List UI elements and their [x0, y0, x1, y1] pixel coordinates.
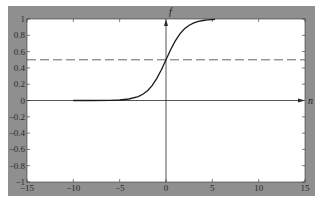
y-tick-label: −0.2 — [9, 112, 25, 122]
x-tick-label: 10 — [254, 183, 264, 193]
y-tick-label: −0.6 — [9, 144, 26, 154]
y-tick-label: 0.2 — [14, 79, 25, 89]
y-tick-label: 1 — [21, 14, 26, 24]
y-tick-label: −0.8 — [9, 161, 26, 171]
n-axis-label: n — [308, 95, 313, 106]
y-tick-label: −0.4 — [9, 128, 26, 138]
x-tick-label: 5 — [210, 183, 215, 193]
x-tick-label: −5 — [115, 183, 125, 193]
y-tick-label: 0.4 — [14, 63, 26, 73]
x-tick-label: 0 — [164, 183, 169, 193]
y-tick-label: 0 — [21, 96, 26, 106]
y-tick-label: 0.6 — [14, 47, 26, 57]
y-tick-label: 0.8 — [14, 30, 26, 40]
x-tick-label: −10 — [66, 183, 81, 193]
x-tick-label: −15 — [20, 183, 35, 193]
sigmoid-chart: −1−0.8−0.6−0.4−0.200.20.40.60.81−15−10−5… — [0, 0, 325, 209]
x-tick-label: 15 — [301, 183, 311, 193]
